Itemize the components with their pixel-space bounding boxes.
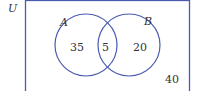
- set-b-label: B: [143, 15, 152, 28]
- set-a-only-count: 35: [70, 41, 84, 54]
- outside-count: 40: [165, 73, 179, 86]
- venn-diagram: U A B 35 5 20 40: [0, 0, 197, 91]
- intersection-count: 5: [102, 41, 109, 54]
- set-a-label: A: [59, 16, 68, 29]
- set-b-only-count: 20: [133, 41, 147, 54]
- universe-label: U: [8, 2, 18, 15]
